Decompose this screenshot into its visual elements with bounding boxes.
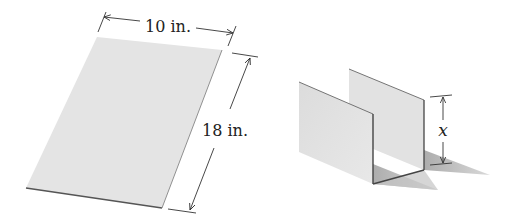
back-shadow [424, 150, 490, 175]
flat-sheet [26, 37, 222, 208]
height-label: x [438, 120, 448, 140]
length-label: 18 in. [202, 121, 248, 140]
sheet-face [26, 37, 222, 208]
diagram-canvas: 10 in. 18 in. [0, 0, 511, 221]
figure: 10 in. 18 in. [0, 0, 511, 221]
folded-channel [299, 69, 490, 190]
width-label: 10 in. [145, 17, 191, 36]
